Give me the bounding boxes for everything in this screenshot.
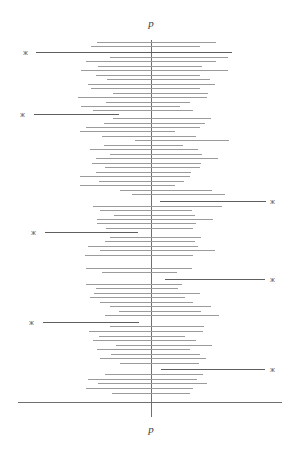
confidence-interval-highlighted — [36, 52, 232, 53]
confidence-interval — [96, 158, 218, 159]
confidence-interval — [119, 311, 201, 312]
confidence-interval — [96, 75, 200, 76]
confidence-interval — [113, 118, 211, 119]
confidence-interval — [106, 228, 193, 229]
confidence-interval — [98, 383, 207, 384]
significance-asterisk-left: ⁎ — [20, 47, 30, 57]
confidence-interval — [102, 272, 177, 273]
confidence-interval — [100, 302, 193, 303]
confidence-interval — [110, 237, 201, 238]
confidence-interval — [110, 306, 211, 307]
confidence-interval — [86, 268, 192, 269]
confidence-interval — [91, 46, 200, 47]
confidence-interval — [97, 223, 196, 224]
confidence-interval — [93, 340, 196, 341]
significance-asterisk-right: ⁎ — [267, 196, 277, 206]
confidence-interval — [99, 181, 184, 182]
confidence-interval — [81, 106, 180, 107]
confidence-interval — [106, 102, 190, 103]
confidence-interval — [78, 97, 207, 98]
confidence-interval — [86, 388, 193, 389]
significance-asterisk-right: ⁎ — [267, 274, 277, 284]
confidence-interval — [104, 123, 205, 124]
confidence-interval-highlighted — [161, 369, 265, 370]
confidence-interval — [90, 297, 185, 298]
confidence-interval — [105, 241, 195, 242]
confidence-interval — [102, 136, 196, 137]
confidence-interval — [86, 284, 182, 285]
confidence-interval — [89, 331, 203, 332]
confidence-interval-highlighted — [43, 322, 139, 323]
confidence-interval — [90, 149, 198, 150]
confidence-interval — [132, 194, 225, 195]
confidence-interval — [85, 255, 193, 256]
horizontal-axis-line — [18, 402, 282, 403]
confidence-interval — [113, 93, 208, 94]
confidence-interval — [86, 61, 216, 62]
forest-plot-canvas: p ⁎⁎⁎⁎⁎⁎⁎ p — [0, 0, 299, 451]
confidence-interval — [92, 163, 201, 164]
confidence-interval — [112, 393, 190, 394]
confidence-interval — [88, 246, 198, 247]
confidence-interval — [107, 79, 210, 80]
confidence-interval — [100, 358, 206, 359]
confidence-interval — [114, 215, 195, 216]
axis-label-top: p — [141, 18, 161, 29]
confidence-interval — [100, 250, 215, 251]
confidence-interval — [88, 379, 197, 380]
confidence-interval — [105, 374, 203, 375]
confidence-interval-highlighted — [45, 232, 138, 233]
confidence-interval — [111, 354, 200, 355]
confidence-interval — [120, 363, 199, 364]
confidence-interval — [80, 176, 190, 177]
confidence-interval — [105, 167, 200, 168]
confidence-interval — [120, 190, 212, 191]
confidence-interval — [116, 345, 212, 346]
confidence-interval — [91, 88, 200, 89]
confidence-interval — [97, 42, 216, 43]
confidence-interval — [88, 84, 215, 85]
confidence-interval — [93, 110, 193, 111]
confidence-interval — [94, 293, 200, 294]
confidence-interval — [105, 315, 219, 316]
confidence-interval — [100, 210, 192, 211]
confidence-interval — [96, 172, 191, 173]
significance-asterisk-left: ⁎ — [26, 317, 36, 327]
confidence-interval-highlighted — [165, 279, 265, 280]
confidence-interval — [93, 206, 222, 207]
confidence-interval-highlighted — [160, 201, 266, 202]
significance-asterisk-right: ⁎ — [267, 364, 277, 374]
confidence-interval — [110, 326, 204, 327]
confidence-interval — [86, 127, 200, 128]
confidence-interval — [135, 140, 229, 141]
confidence-interval — [97, 349, 190, 350]
confidence-interval — [97, 219, 213, 220]
significance-asterisk-left: ⁎ — [28, 227, 38, 237]
confidence-interval — [110, 57, 228, 58]
confidence-interval — [104, 145, 183, 146]
confidence-interval — [80, 131, 175, 132]
confidence-interval — [99, 336, 185, 337]
significance-asterisk-left: ⁎ — [17, 109, 27, 119]
axis-label-bottom: p — [141, 424, 161, 435]
confidence-interval — [98, 66, 202, 67]
confidence-interval — [96, 288, 178, 289]
confidence-interval — [81, 70, 228, 71]
confidence-interval-highlighted — [34, 114, 119, 115]
confidence-interval — [80, 185, 175, 186]
confidence-interval — [110, 154, 202, 155]
